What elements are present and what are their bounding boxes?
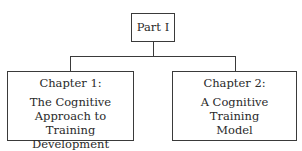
chapter-1-node: Chapter 1: The Cognitive Approach to Tra… [7, 71, 134, 141]
chapter-2-line-2: Training [173, 109, 296, 123]
chapter-2-node: Chapter 2: A Cognitive Training Model [172, 71, 297, 141]
chapter1-connector [70, 56, 71, 71]
chapter-1-line-3: Training Development [8, 123, 133, 151]
root-stem-connector [153, 42, 154, 56]
horizontal-connector [70, 56, 236, 57]
chapter-2-line-3: Model [173, 123, 296, 137]
chapter-1-title: Chapter 1: [8, 76, 133, 90]
part-i-label: Part I [137, 20, 169, 34]
part-i-node: Part I [131, 13, 175, 42]
chapter-2-line-1: A Cognitive [173, 95, 296, 109]
chapter-1-line-2: Approach to [8, 109, 133, 123]
chapter-2-title: Chapter 2: [173, 76, 296, 90]
chapter2-connector [235, 56, 236, 71]
chapter-1-line-1: The Cognitive [8, 95, 133, 109]
